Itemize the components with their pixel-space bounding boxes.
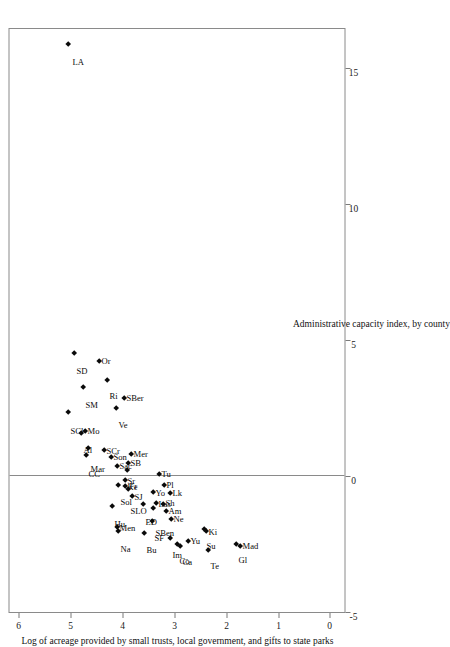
- y-tick: [18, 613, 19, 618]
- y-tick: [70, 613, 71, 618]
- y-tick-label: 1: [275, 622, 280, 632]
- data-point-label: Or: [101, 357, 110, 366]
- data-point-label: SJ: [134, 493, 142, 502]
- x-axis-title: Administrative capacity index, by county: [293, 321, 450, 331]
- y-tick: [174, 613, 175, 618]
- data-point-label: Ne: [173, 515, 183, 524]
- data-point-label: Su: [206, 542, 215, 551]
- data-point-label: Gl: [238, 556, 247, 565]
- data-point-label: Ca: [182, 558, 192, 567]
- data-point-label: CC: [88, 470, 99, 479]
- y-tick: [278, 613, 279, 618]
- y-tick-label: 6: [16, 622, 21, 632]
- data-point-label: SD: [76, 367, 87, 376]
- x-tick-label: -5: [349, 613, 357, 623]
- data-point-label: Ki: [208, 528, 217, 537]
- y-axis-title: Log of acreage provided by small trusts,…: [20, 637, 332, 647]
- y-tick: [226, 613, 227, 618]
- data-point-label: Na: [120, 545, 130, 554]
- data-point-label: Sol: [120, 498, 131, 507]
- y-tick-label: 3: [172, 622, 177, 632]
- y-tick-label: 0: [327, 622, 332, 632]
- x-tick: [345, 476, 350, 477]
- y-tick: [122, 613, 123, 618]
- data-point-label: Mad: [242, 542, 258, 551]
- x-tick-label: 0: [351, 477, 356, 487]
- data-point-label: Ve: [118, 421, 127, 430]
- data-point-label: SLO: [130, 507, 146, 516]
- zero-reference-line: [9, 475, 344, 476]
- data-point-label: Men: [119, 524, 135, 533]
- data-point-label: Tu: [161, 470, 170, 479]
- data-point-label: Yo: [155, 489, 165, 498]
- y-tick: [329, 613, 330, 618]
- data-point-label: SF: [154, 534, 164, 543]
- data-point-label: Bu: [146, 546, 156, 555]
- x-tick-label: 5: [351, 341, 356, 351]
- data-point-label: Lk: [172, 489, 182, 498]
- data-point-label: SBer: [126, 394, 143, 403]
- data-point-label: Mo: [87, 427, 99, 436]
- data-point-label: Ri: [109, 392, 117, 401]
- x-tick-label: 10: [348, 205, 358, 215]
- x-tick-label: 15: [348, 69, 358, 79]
- x-tick: [345, 340, 350, 341]
- data-point-label: LA: [72, 58, 83, 67]
- data-point-label: Te: [210, 562, 218, 571]
- y-tick-label: 4: [120, 622, 125, 632]
- data-point-label: Yu: [190, 537, 200, 546]
- data-point-label: SM: [85, 401, 97, 410]
- y-tick-label: 5: [68, 622, 73, 632]
- y-tick-label: 2: [223, 622, 228, 632]
